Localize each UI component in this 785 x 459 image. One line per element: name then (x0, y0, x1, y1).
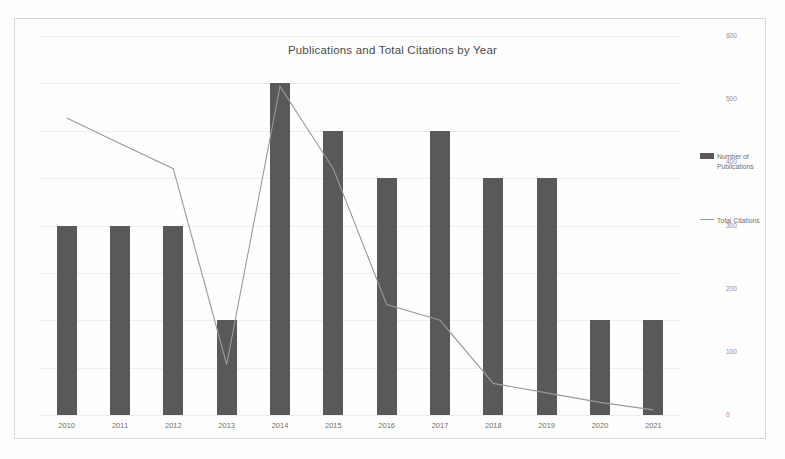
y-axis-right-tick: 600 (726, 33, 756, 40)
x-axis-tick-2016: 2016 (360, 421, 413, 430)
gridline (40, 415, 680, 416)
y-axis-right-tick: 200 (726, 286, 756, 293)
x-axis-tick-2013: 2013 (200, 421, 253, 430)
plot-area: 0123456780100200300400500600201020112012… (40, 36, 680, 415)
x-axis-tick-2021: 2021 (627, 421, 680, 430)
legend-line-swatch-icon (700, 219, 714, 220)
x-axis-tick-2018: 2018 (467, 421, 520, 430)
legend-bar-swatch-icon (700, 153, 714, 159)
legend-item-citations[interactable]: Total Citations (700, 216, 771, 226)
y-axis-right-tick: 0 (726, 412, 756, 419)
citations-line (67, 87, 654, 410)
x-axis-tick-2010: 2010 (40, 421, 93, 430)
x-axis-tick-2017: 2017 (413, 421, 466, 430)
legend-label: Number of Publications (717, 152, 771, 172)
x-axis-tick-2019: 2019 (520, 421, 573, 430)
chart-legend: Number of PublicationsTotal Citations (700, 152, 771, 226)
x-axis-tick-2014: 2014 (253, 421, 306, 430)
y-axis-right-tick: 100 (726, 349, 756, 356)
citations-line-layer (40, 36, 680, 415)
legend-item-publications[interactable]: Number of Publications (700, 152, 771, 172)
x-axis-tick-2020: 2020 (573, 421, 626, 430)
x-axis-tick-2012: 2012 (147, 421, 200, 430)
chart-container: Publications and Total Citations by Year… (0, 0, 785, 459)
y-axis-right-tick: 500 (726, 96, 756, 103)
x-axis-tick-2015: 2015 (307, 421, 360, 430)
legend-label: Total Citations (717, 216, 760, 226)
x-axis-tick-2011: 2011 (93, 421, 146, 430)
